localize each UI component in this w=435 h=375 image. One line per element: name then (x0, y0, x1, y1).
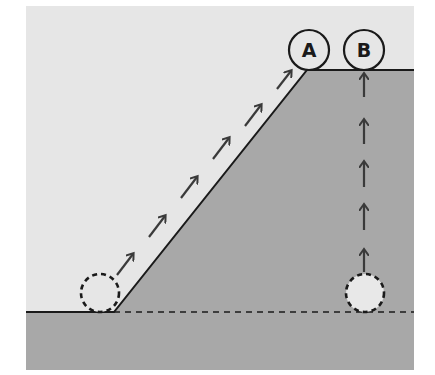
label-b: B (357, 39, 371, 61)
ball-a: A (289, 30, 329, 70)
ball-start-a (81, 274, 119, 312)
slope-diagram: A B (0, 0, 435, 375)
ball-start-b (346, 274, 384, 312)
label-a: A (302, 39, 317, 61)
ball-b: B (344, 30, 384, 70)
